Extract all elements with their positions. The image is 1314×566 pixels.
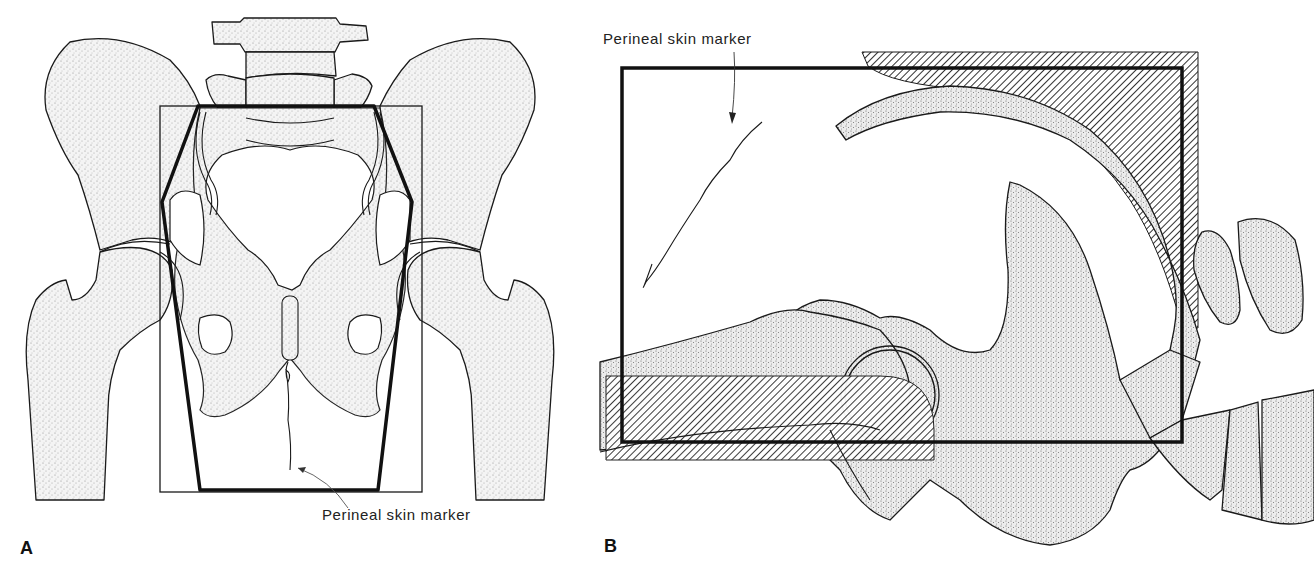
right-femur: [408, 248, 554, 501]
lumbar-vertebra-top: [212, 18, 368, 52]
panel-a-ap-view: Perineal skin marker A: [0, 0, 580, 566]
coccyx-segment-1: [1194, 231, 1240, 324]
right-obturator: [348, 315, 382, 354]
coccyx-segment-2: [1238, 219, 1303, 334]
annotation-label-a: Perineal skin marker: [322, 506, 471, 523]
panel-letter-a: A: [20, 538, 33, 559]
panel-b-lateral-view: Perineal skin marker B: [590, 0, 1314, 566]
shielding-block-anterior: [606, 376, 934, 460]
ap-pelvis-illustration: [0, 0, 580, 566]
left-femur: [26, 248, 172, 501]
pubic-symphysis: [282, 296, 298, 360]
perineal-marker-wire: [286, 362, 291, 470]
annotation-arrow-b: [732, 52, 735, 118]
perineal-marker-wire-lateral: [643, 122, 762, 287]
panel-letter-b: B: [604, 536, 617, 557]
annotation-label-b: Perineal skin marker: [603, 30, 752, 47]
left-obturator: [198, 315, 232, 354]
annotation-arrow-a: [298, 468, 348, 508]
spinal-segment-4: [1262, 390, 1314, 524]
lateral-pelvis-illustration: [590, 0, 1314, 566]
